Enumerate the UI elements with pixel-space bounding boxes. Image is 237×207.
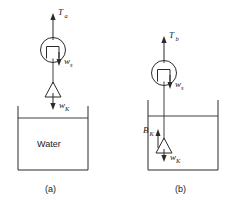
panel-a: T a w s w K xyxy=(18,7,88,194)
scale-body-rect-b xyxy=(158,70,171,82)
panel-a-container xyxy=(18,106,88,170)
panel-b-block-weight-arrow xyxy=(161,149,166,162)
panel-b-scale-weight-arrow xyxy=(168,75,173,89)
block-weight-head-a xyxy=(50,103,55,110)
panel-a-scale-weight-arrow xyxy=(57,52,62,66)
tension-label-a: T xyxy=(58,7,64,17)
tension-subscript-b: b xyxy=(176,35,180,42)
block-weight-head-b xyxy=(161,155,166,162)
panel-b-tension-arrow xyxy=(161,36,166,63)
scale-body-rect-a xyxy=(47,47,60,59)
figure-canvas: T a w s w K xyxy=(0,0,237,207)
tension-label-b: T xyxy=(169,30,175,40)
buoyancy-subscript-b: K xyxy=(149,130,155,137)
scale-weight-subscript-a: s xyxy=(70,61,73,68)
scale-weight-subscript-b: s xyxy=(181,84,184,91)
caption-b: (b) xyxy=(175,184,186,194)
caption-a: (a) xyxy=(45,184,56,194)
block-weight-subscript-a: K xyxy=(64,105,70,112)
water-label-a: Water xyxy=(37,139,61,149)
buoyancy-label-b: B xyxy=(143,125,149,135)
scale-weight-head-a xyxy=(57,59,62,66)
tension-arrow-head-a xyxy=(50,13,55,20)
panel-b: T b w s xyxy=(143,30,218,194)
physics-figure: T a w s w K xyxy=(0,0,237,207)
buoyancy-head-b xyxy=(156,129,161,136)
panel-a-tension-arrow xyxy=(50,13,55,40)
panel-a-block-weight-arrow xyxy=(50,93,55,110)
block-weight-subscript-b: K xyxy=(175,157,181,164)
tension-subscript-a: a xyxy=(65,12,68,19)
scale-weight-head-b xyxy=(168,82,173,89)
tension-arrow-head-b xyxy=(161,36,166,43)
